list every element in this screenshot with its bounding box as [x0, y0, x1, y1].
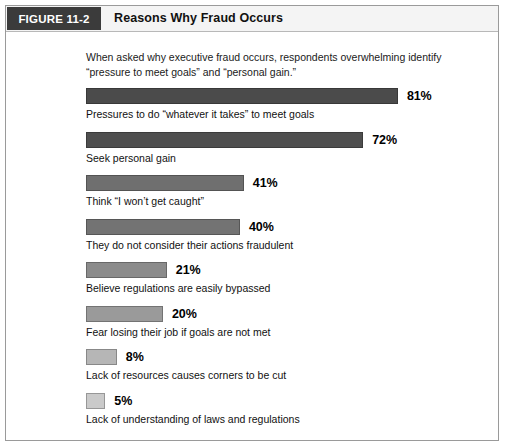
figure-body: When asked why executive fraud occurs, r…: [6, 32, 498, 441]
bar-row: 72%Seek personal gain: [86, 132, 486, 176]
bar-fill: [86, 175, 244, 191]
bar-track: 40%: [86, 219, 486, 235]
figure-number-badge: FIGURE 11-2: [7, 7, 101, 30]
figure-container: FIGURE 11-2 Reasons Why Fraud Occurs Whe…: [5, 5, 499, 441]
bar-category-label: They do not consider their actions fraud…: [86, 239, 486, 252]
bar-row: 21%Believe regulations are easily bypass…: [86, 262, 486, 306]
figure-header: FIGURE 11-2 Reasons Why Fraud Occurs: [6, 6, 498, 32]
bar-value-label: 20%: [172, 307, 197, 321]
bar-value-label: 72%: [372, 133, 397, 147]
bar-category-label: Pressures to do “whatever it takes” to m…: [86, 108, 486, 121]
figure-subtitle: When asked why executive fraud occurs, r…: [86, 50, 446, 79]
bar-row: 40%They do not consider their actions fr…: [86, 219, 486, 263]
figure-title: Reasons Why Fraud Occurs: [114, 6, 283, 30]
bar-value-label: 41%: [253, 176, 278, 190]
bar-row: 81%Pressures to do “whatever it takes” t…: [86, 88, 486, 132]
bar-category-label: Think “I won’t get caught”: [86, 195, 486, 208]
bar-category-label: Lack of understanding of laws and regula…: [86, 413, 486, 426]
bar-fill: [86, 306, 163, 322]
bar-track: 41%: [86, 175, 486, 191]
bar-fill: [86, 132, 363, 148]
bar-value-label: 81%: [407, 89, 432, 103]
bar-track: 8%: [86, 349, 486, 365]
bar-row: 41%Think “I won’t get caught”: [86, 175, 486, 219]
bar-row: 5%Lack of understanding of laws and regu…: [86, 393, 486, 437]
bar-category-label: Seek personal gain: [86, 152, 486, 165]
bar-chart: 81%Pressures to do “whatever it takes” t…: [86, 88, 486, 436]
bar-fill: [86, 88, 398, 104]
bar-value-label: 5%: [114, 394, 132, 408]
bar-fill: [86, 393, 105, 409]
bar-track: 21%: [86, 262, 486, 278]
bar-fill: [86, 219, 240, 235]
bar-category-label: Lack of resources causes corners to be c…: [86, 369, 486, 382]
bar-track: 20%: [86, 306, 486, 322]
bar-track: 81%: [86, 88, 486, 104]
bar-category-label: Fear losing their job if goals are not m…: [86, 326, 486, 339]
bar-row: 20%Fear losing their job if goals are no…: [86, 306, 486, 350]
bar-value-label: 8%: [126, 350, 144, 364]
bar-fill: [86, 262, 167, 278]
bar-track: 5%: [86, 393, 486, 409]
bar-value-label: 40%: [249, 220, 274, 234]
bar-track: 72%: [86, 132, 486, 148]
bar-category-label: Believe regulations are easily bypassed: [86, 282, 486, 295]
bar-value-label: 21%: [176, 263, 201, 277]
bar-fill: [86, 349, 117, 365]
bar-row: 8%Lack of resources causes corners to be…: [86, 349, 486, 393]
